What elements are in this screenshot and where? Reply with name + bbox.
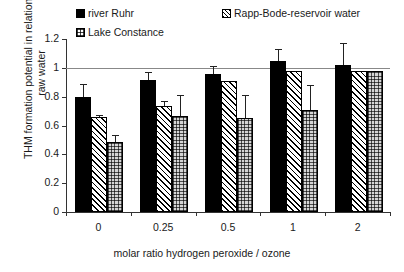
- error-bar: [278, 49, 279, 61]
- bar-group: [75, 39, 123, 212]
- bar-2: [237, 118, 253, 212]
- bar-1: [286, 71, 302, 212]
- x-tick: [131, 212, 132, 216]
- x-tick-label: 0: [68, 221, 128, 233]
- bar-2: [302, 110, 318, 212]
- y-tick: [62, 183, 66, 184]
- bar-1: [156, 106, 172, 212]
- error-bar-cap: [161, 101, 168, 102]
- x-tick: [196, 212, 197, 216]
- x-tick: [325, 212, 326, 216]
- legend-swatch-grid-icon: [76, 28, 85, 37]
- error-bar: [310, 85, 311, 110]
- error-bar-cap: [242, 95, 249, 96]
- legend-label-river-ruhr: river Ruhr: [88, 7, 134, 19]
- y-tick-label: 1: [19, 61, 59, 73]
- x-tick-label: 0.25: [133, 221, 193, 233]
- bar-group: [140, 39, 188, 212]
- bar-0: [140, 80, 156, 212]
- x-tick-label: 0.5: [198, 221, 258, 233]
- error-bar-cap: [112, 135, 119, 136]
- error-bar-cap: [145, 72, 152, 73]
- x-tick: [390, 212, 391, 216]
- error-bar-cap: [340, 43, 347, 44]
- bar-0: [205, 74, 221, 212]
- error-bar-cap: [210, 66, 217, 67]
- bar-0: [75, 97, 91, 212]
- bar-group: [335, 39, 383, 212]
- error-bar: [245, 95, 246, 118]
- error-bar-cap: [96, 115, 103, 116]
- bar-0: [335, 65, 351, 212]
- y-tick: [62, 126, 66, 127]
- y-tick: [62, 154, 66, 155]
- error-bar: [83, 84, 84, 96]
- error-bar-cap: [275, 49, 282, 50]
- bar-2: [367, 71, 383, 212]
- bar-group: [270, 39, 318, 212]
- x-tick: [66, 212, 67, 216]
- bar-1: [351, 71, 367, 212]
- legend-item-river-ruhr: river Ruhr: [76, 7, 134, 19]
- bar-0: [270, 61, 286, 212]
- legend-item-lake-constance: Lake Constance: [76, 26, 164, 38]
- error-bar-cap: [80, 84, 87, 85]
- legend-swatch-diagonal-icon: [222, 9, 231, 18]
- y-tick-label: 0.8: [19, 90, 59, 102]
- error-bar-cap: [307, 85, 314, 86]
- bar-1: [221, 81, 237, 212]
- error-bar: [180, 95, 181, 116]
- legend-item-rapp-bode: Rapp-Bode-reservoir water: [222, 7, 360, 19]
- legend-swatch-solid-icon: [76, 9, 85, 18]
- x-axis-line: [66, 212, 390, 213]
- y-tick-label: 0.4: [19, 147, 59, 159]
- x-tick: [260, 212, 261, 216]
- y-tick-label: 0.6: [19, 119, 59, 131]
- legend-label-lake-constance: Lake Constance: [88, 26, 164, 38]
- error-bar: [213, 66, 214, 74]
- bar-2: [107, 142, 123, 212]
- bar-group: [205, 39, 253, 212]
- legend-label-rapp-bode: Rapp-Bode-reservoir water: [234, 7, 360, 19]
- y-tick-label: 1.2: [19, 32, 59, 44]
- bar-1: [91, 117, 107, 212]
- y-axis-title: THM formation potential in relation to r…: [22, 0, 48, 163]
- x-tick-label: 2: [328, 221, 388, 233]
- y-tick-label: 0: [19, 205, 59, 217]
- bar-2: [172, 116, 188, 212]
- y-tick: [62, 97, 66, 98]
- error-bar: [343, 43, 344, 65]
- thm-formation-bar-chart: river Ruhr Rapp-Bode-reservoir water Lak…: [0, 0, 404, 272]
- error-bar: [148, 72, 149, 80]
- error-bar: [115, 135, 116, 142]
- x-axis-title: molar ratio hydrogen peroxide / ozone: [0, 247, 404, 259]
- y-tick-label: 0.2: [19, 176, 59, 188]
- plot-area: 00.20.40.60.811.2 00.250.512: [66, 39, 390, 212]
- y-axis-line: [66, 39, 67, 212]
- error-bar-cap: [177, 95, 184, 96]
- y-tick: [62, 39, 66, 40]
- x-tick-label: 1: [263, 221, 323, 233]
